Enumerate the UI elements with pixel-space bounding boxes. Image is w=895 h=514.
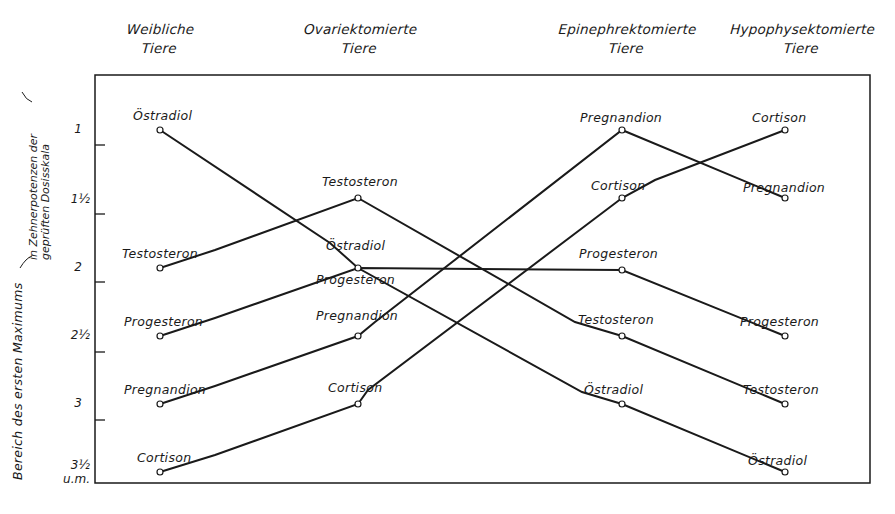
label-c1-cortison: Cortison xyxy=(328,380,382,395)
label-c3-pregnandion: Pregnandion xyxy=(743,180,825,195)
label-c2-testosteron: Testosteron xyxy=(578,312,654,327)
line-pregnandion xyxy=(160,130,785,404)
y-axis-ticks xyxy=(95,145,105,420)
label-c2-cortison: Cortison xyxy=(591,178,645,193)
label-c1-testosteron: Testosteron xyxy=(322,174,398,189)
label-c1-progesteron: Progesteron xyxy=(316,272,395,287)
label-c0-progesteron: Progesteron xyxy=(124,314,203,329)
label-c2-oestradiol: Östradiol xyxy=(584,382,643,397)
label-c3-oestradiol: Östradiol xyxy=(748,453,807,468)
label-c0-cortison: Cortison xyxy=(137,450,191,465)
line-cortison xyxy=(160,130,785,472)
label-c1-oestradiol: Östradiol xyxy=(326,238,385,253)
label-c0-pregnandion: Pregnandion xyxy=(124,382,206,397)
label-c3-testosteron: Testosteron xyxy=(743,382,819,397)
label-c0-testosteron: Testosteron xyxy=(122,246,198,261)
label-c3-cortison: Cortison xyxy=(752,110,806,125)
label-c0-oestradiol: Östradiol xyxy=(133,108,192,123)
line-oestradiol xyxy=(160,130,785,472)
label-c1-pregnandion: Pregnandion xyxy=(316,308,398,323)
label-c2-progesteron: Progesteron xyxy=(579,246,658,261)
plot-frame xyxy=(95,75,870,483)
label-c3-progesteron: Progesteron xyxy=(740,314,819,329)
node-markers xyxy=(157,127,788,475)
label-c2-pregnandion: Pregnandion xyxy=(580,110,662,125)
line-progesteron xyxy=(160,268,785,336)
